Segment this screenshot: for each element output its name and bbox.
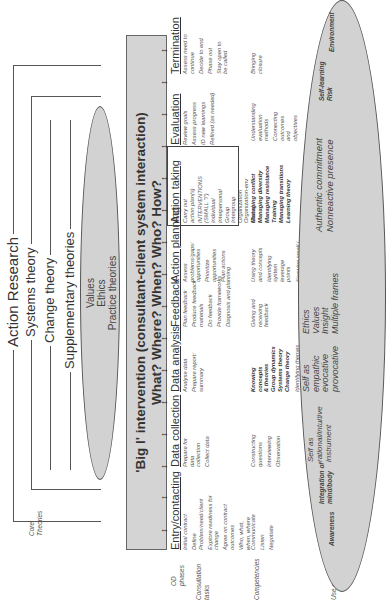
task-item: Stay open to be called: [216, 34, 229, 74]
double-arrow-icon: ↔: [160, 269, 169, 278]
self-awareness: Awareness: [328, 512, 336, 546]
phase-title: Data analysis: [169, 332, 181, 392]
task-item: Produce feedback materials: [191, 277, 204, 327]
phase-entry-contacting: Entry/contacting Initial contract Define…: [169, 480, 254, 550]
self-item: mind/body: [326, 462, 334, 504]
self-item: Self-learning: [318, 62, 326, 101]
core-theories-label: Core Theories: [28, 511, 43, 536]
phase-data-collection: Data collection Prepare for data collect…: [169, 407, 213, 467]
self-item: Self as: [306, 406, 315, 462]
double-arrow-icon: ↔: [160, 397, 169, 406]
consultation-label-line: Consultation: [195, 564, 203, 600]
task-item: Assess problems/gaps/ opportunities: [182, 226, 202, 282]
self-empathic: Self as empathic evocative provocative: [302, 346, 340, 392]
self-item: Awareness: [328, 512, 336, 546]
phase-title: Termination: [169, 18, 181, 74]
self-authentic: Authentic commitment Nonreactive presenc…: [313, 138, 335, 232]
self-item: Integration of: [318, 462, 326, 504]
double-arrow-icon: ↔: [160, 365, 169, 374]
task-item: Assess need to continue: [182, 34, 195, 74]
change-theory-label: Change theory: [43, 255, 57, 346]
phase-evaluation: Evaluation Review goals Assess progress …: [169, 93, 218, 145]
competency-item: Managing diversity: [257, 153, 264, 223]
competency-item: Change theory: [284, 340, 291, 392]
core-label-line: Core: [28, 511, 36, 536]
double-arrow-icon: ↔: [160, 45, 169, 54]
competency-item: Learning theory: [285, 153, 292, 223]
task-item: Prepare for data collection: [182, 433, 202, 467]
phase-title: Action planning: [169, 224, 181, 282]
competency-item: Negotiate: [268, 505, 275, 550]
competency-item: Systems theory: [277, 340, 284, 392]
competencies-evaluation: Understanding evaluation methods Connect…: [250, 105, 301, 141]
task-item: Collect data: [204, 407, 211, 467]
competencies-data-collection: Constructing questions Interviewing Obse…: [250, 429, 284, 467]
phase-termination: Termination Assess need to continue Deci…: [169, 18, 232, 74]
competency-item: Group dynamics: [270, 340, 277, 392]
task-item: Prioritize opportunities: [204, 226, 217, 282]
task-item: Group: [224, 149, 231, 223]
task-item: Interpersonal: [217, 149, 224, 223]
task-item: INTERVENTIONS (SMALL "i"): [197, 183, 210, 223]
self-item: instrument: [324, 406, 333, 462]
competency-item: Connecting outcomes and objectives: [272, 105, 298, 141]
competencies-label: Competencies: [253, 558, 261, 600]
competency-item: Managing transitions: [278, 153, 285, 223]
double-arrow-icon: ↔: [160, 237, 169, 246]
od-label-line: OD: [170, 565, 178, 586]
double-arrow-icon: ↔: [160, 525, 169, 534]
task-item: ID new learnings: [200, 93, 207, 145]
phase-title: Evaluation: [169, 93, 181, 145]
action-research-label: Action Research: [5, 234, 21, 350]
double-arrow-icon: ↔: [160, 77, 169, 86]
double-arrow-icon: ↔: [160, 333, 169, 342]
values-ellipse: Values Ethics Practice theories: [80, 106, 120, 480]
double-arrow-icon: ↔: [160, 301, 169, 310]
task-item: Plan actions: [220, 224, 227, 282]
task-item: Decide to end: [198, 18, 205, 74]
self-item: Authentic commitment: [313, 138, 324, 232]
competencies-action-taking: Managing conflict Managing diversity Man…: [250, 153, 293, 223]
tasks-label-line: tasks: [203, 564, 211, 600]
competency-item: Listen: [259, 505, 266, 550]
double-arrow-icon: ↔: [160, 461, 169, 470]
competency-item: Training: [271, 153, 278, 223]
competencies-entry: Communicate Listen Negotiate: [250, 505, 277, 550]
phase-title: Entry/contacting: [169, 480, 181, 550]
phases-label-line: phases: [178, 565, 186, 586]
self-item: rational/intuitive: [315, 406, 324, 462]
double-arrow-icon: ↔: [160, 429, 169, 438]
task-item: Explore readiness for change: [207, 484, 220, 550]
systems-theory-label: Systems theory: [24, 244, 38, 340]
self-rational-intuitive: Self as rational/intuitive instrument: [306, 406, 333, 462]
phase-title: Action taking: [169, 149, 181, 223]
task-item: Intergroup: [230, 149, 237, 223]
self-item: Environment: [328, 12, 336, 52]
self-integration: Integration of mind/body: [318, 462, 334, 504]
competency-item: Constructing questions: [250, 429, 263, 467]
phase-action-taking: Action taking Carry out action plan(s) I…: [169, 149, 257, 223]
competency-item: Interviewing: [266, 429, 273, 467]
phase-action-planning: Action planning Assess problems/gaps/ op…: [169, 224, 229, 282]
phase-data-analysis: Data analysis Analyse data Prepare repor…: [169, 332, 207, 392]
task-item: Organization-env: [243, 149, 250, 223]
self-environment: Environment: [328, 12, 336, 52]
competency-item: Identifying system leverage points: [266, 246, 292, 282]
task-item: Review goals: [182, 93, 189, 145]
supplementary-theories-label: Supplementary theories: [63, 229, 77, 372]
self-item: Multiple frames: [331, 273, 341, 334]
task-item: Define Problem/need/client: [191, 484, 204, 550]
self-item: Risk: [326, 62, 334, 101]
task-item: Phase out: [207, 18, 214, 74]
competency-item: Giving and receiving feedback: [250, 297, 270, 327]
intervention-title: 'Big I' intervention (consultant-client …: [133, 36, 148, 549]
task-item: Carry out action plan(s): [182, 187, 195, 223]
double-arrow-icon: ↔: [160, 492, 169, 501]
od-model-diagram: Action Research Systems theory Change th…: [0, 0, 391, 604]
task-item: Assess progress: [191, 93, 198, 145]
competency-item: Observation: [275, 429, 282, 467]
task-item: Refined (as needed): [209, 93, 216, 145]
od-phases-label: OD phases: [170, 565, 185, 586]
competencies-termination: Bringing closure: [250, 44, 266, 74]
values-label: Values: [85, 107, 96, 479]
